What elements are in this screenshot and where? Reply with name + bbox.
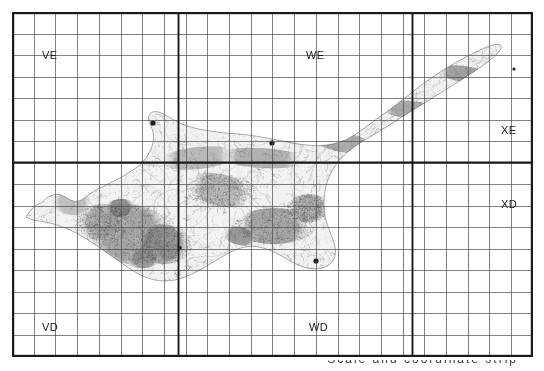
zone-vd-label: VD xyxy=(42,322,58,333)
mgrs-grid-overlay xyxy=(12,12,533,357)
bottom-caption-text: Scale and coordinate strip xyxy=(0,360,544,366)
map-screenshot: VEWEXEXDVDWD Scale and coordinate strip xyxy=(0,0,544,371)
map-frame[interactable]: VEWEXEXDVDWD xyxy=(12,12,533,357)
zone-ve-label: VE xyxy=(42,50,57,61)
zone-xd-label: XD xyxy=(501,199,517,210)
zone-wd-label: WD xyxy=(309,322,328,333)
zone-we-label: WE xyxy=(306,50,325,61)
bottom-caption: Scale and coordinate strip xyxy=(0,360,544,371)
zone-xe-label: XE xyxy=(501,125,516,136)
